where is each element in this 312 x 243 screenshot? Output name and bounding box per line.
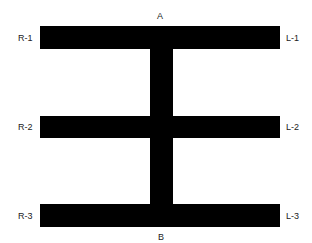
label-left-1: R-1 bbox=[18, 33, 33, 43]
label-top: A bbox=[157, 11, 163, 21]
label-left-2: R-2 bbox=[18, 122, 33, 132]
bottom-bar bbox=[40, 204, 280, 227]
label-right-1: L-1 bbox=[286, 33, 299, 43]
label-bottom: B bbox=[158, 232, 164, 242]
label-right-3: L-3 bbox=[286, 211, 299, 221]
middle-bar bbox=[40, 116, 280, 138]
label-right-2: L-2 bbox=[286, 122, 299, 132]
label-left-3: R-3 bbox=[18, 211, 33, 221]
